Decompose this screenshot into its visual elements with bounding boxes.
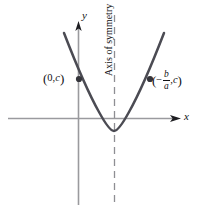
parabola-figure: y x ( 0 , c ) ( − b a , c ) Axis of symm…: [0, 0, 206, 217]
x-axis-label: x: [184, 111, 189, 122]
b-over-a-fraction: b a: [163, 70, 170, 91]
fraction-denominator: a: [163, 81, 170, 91]
right-close-paren: ): [178, 74, 182, 87]
fraction-numerator: b: [163, 70, 170, 80]
right-minus-sign: −: [156, 75, 162, 86]
left-close-paren: ): [60, 72, 64, 85]
axis-of-symmetry-caption: Axis of symmetry: [103, 4, 114, 76]
y-intercept-label: ( 0 , c ): [43, 72, 64, 85]
symmetric-point-label: ( − b a , c ): [152, 70, 182, 91]
y-axis-label: y: [82, 10, 87, 21]
y-intercept-dot: [76, 76, 82, 82]
